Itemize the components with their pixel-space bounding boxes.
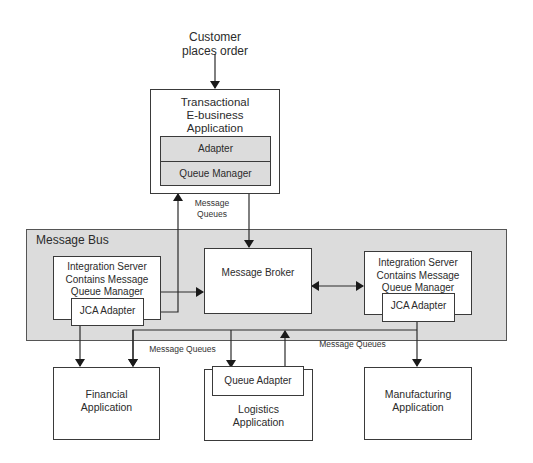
right-jca-adapter-label: JCA Adapter [382,299,455,312]
transactional-queue-manager-label: Queue Manager [160,167,271,180]
manufacturing-app-label: Manufacturing Application [364,388,472,414]
logistics-queue-adapter-label: Queue Adapter [212,374,304,387]
message-queues-right-label: Message Queues [315,339,390,350]
message-queues-left-label: Message Queues [145,344,220,355]
left-jca-adapter-label: JCA Adapter [71,304,144,317]
message-queues-top-label: Message Queues [182,198,242,220]
financial-app-label: Financial Application [53,388,160,414]
left-integration-server-title: Integration Server Contains Message Queu… [53,261,161,299]
logistics-app-label: Logistics Application [204,403,313,429]
transactional-adapter-label: Adapter [160,142,271,155]
right-integration-server-title: Integration Server Contains Message Queu… [364,257,472,295]
customer-places-order-label: Customer places order [160,30,270,58]
message-broker-box [204,248,312,314]
transactional-app-title: Transactional E-business Application [150,96,280,135]
message-broker-label: Message Broker [204,266,312,279]
